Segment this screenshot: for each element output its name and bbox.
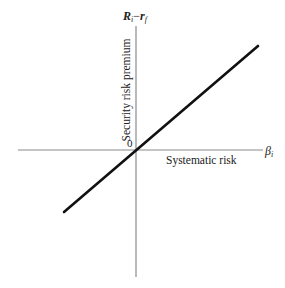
risk-premium-diagram: Ri−rf Security risk premium 0 Systematic… xyxy=(0,0,285,288)
y-axis-label: Security risk premium xyxy=(120,39,133,142)
characteristic-line xyxy=(64,46,258,212)
origin-label: 0 xyxy=(127,137,133,149)
y-axis-symbol: Ri−rf xyxy=(122,9,149,24)
x-axis-label: Systematic risk xyxy=(166,154,237,167)
x-axis-symbol: βi xyxy=(264,144,273,159)
